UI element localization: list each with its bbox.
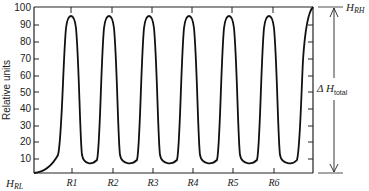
y-tick-100: 100 <box>14 2 31 13</box>
y-tick-90: 90 <box>20 19 32 30</box>
y-tick-50: 50 <box>20 87 32 98</box>
y-tick-60: 60 <box>20 70 32 81</box>
y-tick-40: 40 <box>20 103 32 114</box>
x-tick-r6: R6 <box>267 177 279 188</box>
chart: 10 20 30 40 50 60 70 80 90 100 Relative … <box>0 0 369 191</box>
hrl-label: HRL <box>5 177 24 191</box>
y-axis-title: Relative units <box>1 60 12 120</box>
x-tick-r1: R1 <box>65 177 77 188</box>
y-tick-labels: 10 20 30 40 50 60 70 80 90 100 <box>14 2 31 164</box>
y-tick-20: 20 <box>20 136 32 147</box>
y-ticks <box>34 25 39 159</box>
x-tick-labels: R1 R2 R3 R4 R5 R6 <box>65 177 279 188</box>
x-tick-r4: R4 <box>186 177 198 188</box>
y-tick-70: 70 <box>20 53 32 64</box>
y-tick-30: 30 <box>20 120 32 131</box>
hrh-label: HRH <box>345 1 366 15</box>
response-curve <box>34 7 313 173</box>
x-tick-r5: R5 <box>226 177 238 188</box>
delta-h-total-label: Δ Htotal <box>316 82 348 96</box>
y-tick-10: 10 <box>20 153 32 164</box>
x-tick-r2: R2 <box>106 177 118 188</box>
x-tick-r3: R3 <box>146 177 158 188</box>
y-tick-80: 80 <box>20 36 32 47</box>
right-ticks <box>308 25 313 159</box>
